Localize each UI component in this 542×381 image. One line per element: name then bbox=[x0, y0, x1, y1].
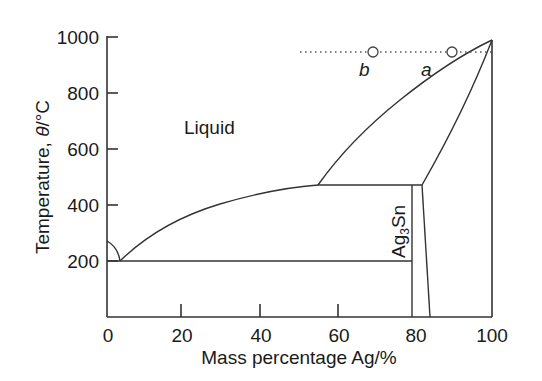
y-tick-label: 200 bbox=[67, 251, 99, 272]
y-tick-label: 600 bbox=[67, 139, 99, 160]
ag3sn-solvus bbox=[422, 185, 430, 317]
y-tick-label: 800 bbox=[67, 83, 99, 104]
point-b-marker bbox=[368, 47, 378, 57]
sn-side-liquidus bbox=[107, 241, 120, 261]
x-tick-label: 60 bbox=[328, 325, 349, 346]
x-axis-title: Mass percentage Ag/% bbox=[201, 347, 396, 368]
phase-diagram: 1000 800 600 400 200 0 20 40 60 80 100 M… bbox=[0, 0, 542, 381]
solidus-ag-rich bbox=[422, 40, 492, 185]
x-ticks bbox=[181, 304, 338, 317]
x-tick-label: 0 bbox=[103, 325, 114, 346]
y-axis-title: Temperature, θ/°C bbox=[32, 100, 53, 254]
x-tick-label: 40 bbox=[250, 325, 271, 346]
liquidus-sn-rich bbox=[120, 185, 318, 261]
y-ticks bbox=[107, 37, 118, 261]
point-a-marker bbox=[447, 47, 457, 57]
point-b-label: b bbox=[359, 59, 370, 80]
x-tick-label: 20 bbox=[171, 325, 192, 346]
y-tick-label: 1000 bbox=[57, 27, 99, 48]
point-a-label: a bbox=[421, 59, 432, 80]
x-tick-label: 100 bbox=[476, 325, 508, 346]
liquid-region-label: Liquid bbox=[184, 117, 235, 138]
y-tick-label: 400 bbox=[67, 195, 99, 216]
ag3sn-label: Ag3Sn bbox=[388, 205, 412, 258]
x-tick-label: 80 bbox=[405, 325, 426, 346]
liquidus-ag-rich bbox=[318, 40, 492, 185]
